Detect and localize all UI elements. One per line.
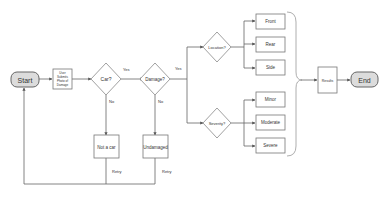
node-end[interactable]: End [351,72,378,87]
node-side-label: Side [266,65,276,70]
node-location-decision[interactable]: Location? [203,32,231,62]
node-front[interactable]: Front [256,14,285,29]
edge-label-undamaged-retry: Retry [162,169,172,174]
node-submit-line-4: Damage [57,83,69,87]
edge-label-car-no: No [109,99,115,104]
node-start[interactable]: Start [11,72,39,87]
node-end-label: End [358,77,371,84]
node-rear-label: Rear [266,42,276,47]
node-damage-label: Damage? [145,77,165,82]
edge-label-damage-yes: Yes [175,66,182,71]
node-severe-label: Severe [263,143,278,148]
connectors [24,21,350,184]
node-submit-photo[interactable]: User Submits Photo of Damage [53,69,72,89]
node-minor[interactable]: Minor [256,92,285,107]
node-undamaged[interactable]: Undamaged [143,135,168,158]
node-minor-label: Minor [265,97,277,102]
node-moderate-label: Moderate [261,120,281,125]
edge-label-notcar-retry: Retry [112,169,122,174]
edge-label-damage-no: No [158,99,164,104]
node-severe[interactable]: Severe [256,138,285,153]
node-car-decision[interactable]: Car? [91,63,121,95]
node-side[interactable]: Side [256,60,285,75]
node-not-car-label: Not a car [97,145,116,150]
node-results[interactable]: Results [318,67,337,93]
node-results-label: Results [322,79,334,83]
node-not-a-car[interactable]: Not a car [94,135,119,158]
node-severity-label: Severity? [209,121,226,126]
node-rear[interactable]: Rear [256,37,285,52]
edge-label-car-yes: Yes [123,67,130,72]
merge-brace [287,12,302,156]
node-damage-decision[interactable]: Damage? [140,63,170,95]
node-front-label: Front [265,19,276,24]
node-location-label: Location? [208,45,226,50]
node-undamaged-label: Undamaged [143,145,168,150]
node-car-label: Car? [101,76,112,82]
node-start-label: Start [18,77,33,84]
node-moderate[interactable]: Moderate [256,115,285,130]
node-severity-decision[interactable]: Severity? [203,108,231,138]
flowchart: Yes No Yes No Retry Retry Start User Sub… [0,0,388,197]
